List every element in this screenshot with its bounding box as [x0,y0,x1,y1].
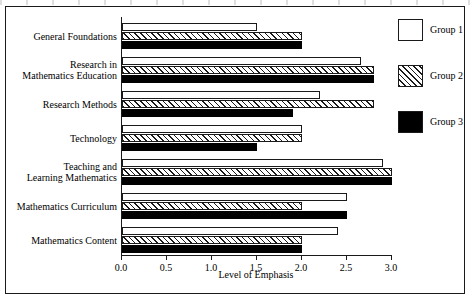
category-axis-label: Mathematics Content [0,235,121,246]
category-group: Teaching andLearning Mathematics [121,159,392,185]
category-group: Technology [121,125,392,151]
category-axis-label: Teaching andLearning Mathematics [0,161,121,183]
legend-label: Group 3 [430,116,463,127]
chart-figure-frame: 0.00.51.01.52.02.53.0 General Foundation… [5,6,465,294]
bar-group-1 [122,159,383,167]
x-tick-mark [121,255,122,260]
x-tick-mark [256,255,257,260]
bar-group-2 [122,134,302,142]
category-label-line: Technology [0,133,117,144]
bar-group-2 [122,202,302,210]
legend-label: Group 2 [430,70,463,81]
x-axis-title: Level of Emphasis [121,269,391,280]
bar-group-3 [122,143,257,151]
bar-group-3 [122,245,302,253]
category-axis-label: Research inMathematics Education [0,59,121,81]
bar-group-2 [122,236,302,244]
category-axis-label: General Foundations [0,31,121,42]
bar-group-2 [122,66,374,74]
legend-swatch [398,19,423,41]
bar-group-1 [122,57,361,65]
category-group: Research Methods [121,91,392,117]
category-label-line: Teaching and [0,161,117,172]
category-label-line: Mathematics Content [0,235,117,246]
category-label-line: Research in [0,59,117,70]
category-axis-label: Research Methods [0,99,121,110]
category-label-line: General Foundations [0,31,117,42]
bar-group-1 [122,125,302,133]
bar-group-2 [122,168,392,176]
x-tick-mark [211,255,212,260]
scan-artifact-strip [0,0,472,5]
bar-group-3 [122,211,347,219]
bar-group-2 [122,32,302,40]
category-group: General Foundations [121,23,392,49]
category-axis-label: Mathematics Curriculum [0,201,121,212]
bar-group-3 [122,75,374,83]
x-tick-mark [301,255,302,260]
legend-label: Group 1 [430,24,463,35]
category-axis-label: Technology [0,133,121,144]
plot-area: 0.00.51.01.52.02.53.0 General Foundation… [121,17,391,255]
bar-group-3 [122,41,302,49]
x-tick-mark [166,255,167,260]
category-label-line: Mathematics Education [0,70,117,81]
category-label-line: Mathematics Curriculum [0,201,117,212]
bar-group-1 [122,91,320,99]
x-tick-mark [346,255,347,260]
category-label-line: Research Methods [0,99,117,110]
category-group: Mathematics Curriculum [121,193,392,219]
category-group: Research inMathematics Education [121,57,392,83]
x-tick-mark [391,255,392,260]
bar-group-2 [122,100,374,108]
bar-group-3 [122,177,392,185]
bar-group-1 [122,23,257,31]
bar-group-1 [122,227,338,235]
legend-swatch [398,111,423,133]
legend-swatch [398,65,423,87]
category-label-line: Learning Mathematics [0,172,117,183]
bar-group-3 [122,109,293,117]
category-group: Mathematics Content [121,227,392,253]
bar-group-1 [122,193,347,201]
